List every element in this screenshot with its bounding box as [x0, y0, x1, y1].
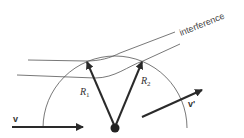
v-label: v	[13, 114, 18, 124]
lower-ray-path	[17, 44, 180, 78]
r1-label: R1	[79, 86, 90, 99]
r1-vector	[87, 62, 115, 127]
scattering-center-dot	[111, 124, 120, 133]
interference-label: interference	[178, 11, 226, 38]
r2-label: R2	[140, 75, 151, 88]
v-prime-label: v'	[188, 99, 195, 109]
diagram-canvas: interference R1 R2 v v'	[0, 0, 244, 138]
scattering-arc	[43, 56, 187, 128]
